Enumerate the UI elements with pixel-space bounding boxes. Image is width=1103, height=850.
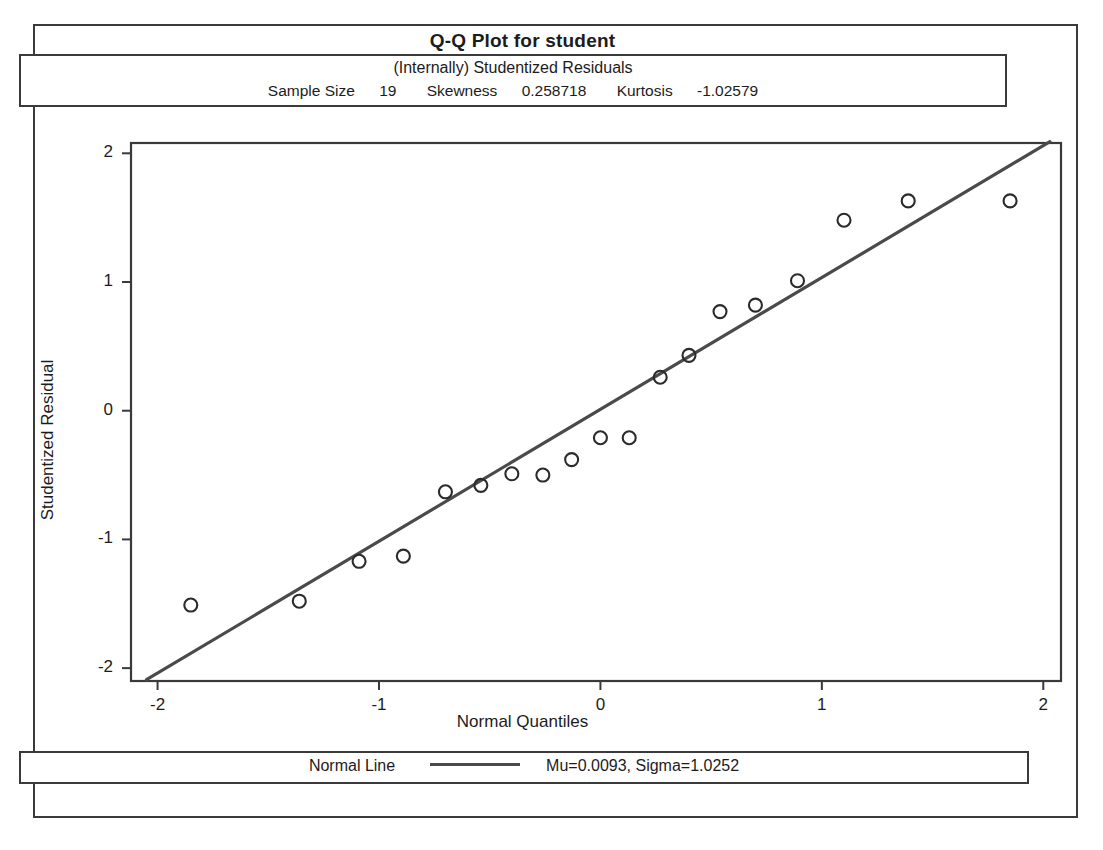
y-tick-label: 0	[79, 400, 113, 420]
legend-box: Normal Line Mu=0.0093, Sigma=1.0252	[19, 751, 1029, 784]
stat-value-kurtosis: -1.02579	[697, 82, 758, 100]
y-tick-label: 1	[79, 271, 113, 291]
x-tick-label: 1	[802, 695, 842, 715]
stat-label-sample-size: Sample Size	[268, 82, 355, 100]
y-tick-label: 2	[79, 142, 113, 162]
chart-outer-frame	[33, 24, 1078, 818]
y-tick-label: -2	[79, 657, 113, 677]
stat-label-kurtosis: Kurtosis	[617, 82, 673, 100]
x-tick-label: 0	[580, 695, 620, 715]
y-axis-title: Studentized Residual	[38, 290, 58, 590]
legend-line-swatch	[430, 763, 520, 766]
x-tick-label: 2	[1023, 695, 1063, 715]
y-tick-label: -1	[79, 528, 113, 548]
page-title: Q-Q Plot for student	[0, 30, 1045, 52]
x-tick-label: -1	[359, 695, 399, 715]
legend-params: Mu=0.0093, Sigma=1.0252	[546, 757, 739, 774]
x-tick-label: -2	[138, 695, 178, 715]
header-stats-row: Sample Size 19 Skewness 0.258718 Kurtosi…	[21, 82, 1005, 100]
stat-label-skewness: Skewness	[427, 82, 498, 100]
x-axis-title: Normal Quantiles	[0, 712, 1045, 732]
legend-series-label: Normal Line	[309, 757, 395, 774]
stat-value-skewness: 0.258718	[522, 82, 587, 100]
legend-content: Normal Line Mu=0.0093, Sigma=1.0252	[21, 757, 1027, 775]
stat-value-sample-size: 19	[379, 82, 396, 100]
header-info-box: (Internally) Studentized Residuals Sampl…	[19, 54, 1007, 107]
header-subtitle: (Internally) Studentized Residuals	[21, 59, 1005, 77]
